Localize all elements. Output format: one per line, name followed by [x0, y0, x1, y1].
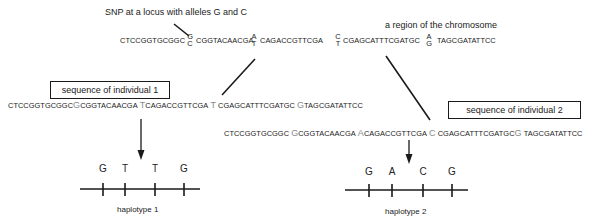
chromosome-segment-4: CGAGCATTTCGATGC	[343, 36, 420, 45]
individual-2-sequence: CTCCGGTGCGGC GCGGTACAACGA ACAGACCGTTCGA …	[224, 128, 582, 138]
chromosome-snp-1: G C	[186, 33, 194, 47]
allele-bottom: T	[334, 40, 342, 47]
segment: CGGTACAACGA	[298, 129, 356, 138]
region-label: a region of the chromosome	[385, 20, 497, 30]
segment: CTCCGGTGCGGC	[224, 129, 289, 138]
segment: CAGACCGTTCGA	[364, 129, 427, 138]
haplotype-2-label: haplotype 2	[385, 207, 426, 216]
arrow-2-head-icon	[406, 154, 413, 164]
segment: TAGCGATATTCC	[524, 129, 583, 138]
chromosome-segment-1: CTCCGGTGCGGC	[120, 36, 185, 45]
haplotype-1-allele-1: G	[98, 163, 108, 174]
connector-line-individual-2	[386, 56, 430, 120]
individual-1-sequence: CTCCGGTGCGGCGCGGTACAACGA TCAGACCGTTCGA T…	[8, 100, 363, 110]
haplotype-1-allele-2: T	[120, 163, 130, 174]
haplotype-2-allele-1: G	[364, 166, 374, 177]
haplotype-1-label: haplotype 1	[117, 205, 158, 214]
allele-bottom: C	[186, 40, 194, 47]
chromosome-segment-2: CGGTACAACGA	[196, 36, 254, 45]
chromosome-snp-4: A G	[425, 33, 433, 47]
segment: CGGTACAACGA	[80, 101, 138, 110]
snp-allele: C	[429, 128, 436, 138]
snp-annotation: SNP at a locus with alleles G and C	[105, 7, 247, 17]
segment: CTCCGGTGCGGC	[8, 101, 73, 110]
allele-bottom: G	[425, 40, 433, 47]
haplotype-2-allele-3: C	[418, 166, 428, 177]
haplotype-1-allele-3: T	[150, 163, 160, 174]
segment: CGAGCATTTCGATGC	[218, 101, 295, 110]
individual-2-box-label: sequence of individual 2	[466, 105, 563, 115]
snp-allele: G	[515, 128, 522, 138]
arrow-1-head-icon	[138, 150, 145, 160]
chromosome-snp-3: C T	[334, 33, 342, 47]
individual-1-box: sequence of individual 1	[50, 81, 170, 99]
allele-bottom: T	[250, 40, 258, 47]
segment: CAGACCGTTCGA	[145, 101, 208, 110]
individual-1-box-label: sequence of individual 1	[62, 85, 159, 95]
haplotype-2-allele-4: G	[447, 166, 457, 177]
connector-line-individual-1	[222, 59, 255, 95]
chromosome-segment-3: CAGACCGTTCGA	[260, 36, 323, 45]
chromosome-snp-2: A T	[250, 33, 258, 47]
individual-2-box: sequence of individual 2	[448, 101, 581, 119]
snp-allele: T	[210, 100, 216, 110]
segment: TAGCGATATTCC	[304, 101, 363, 110]
haplotype-2-allele-2: A	[387, 166, 397, 177]
chromosome-segment-5: TAGCGATATTCC	[437, 36, 496, 45]
segment: CGAGCATTTCGATGC	[438, 129, 515, 138]
haplotype-1-allele-4: G	[179, 163, 189, 174]
